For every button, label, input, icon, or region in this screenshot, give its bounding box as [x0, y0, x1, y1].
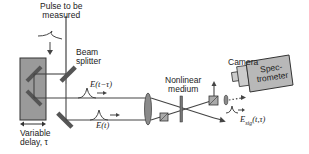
pulse-label-line2: measured	[40, 11, 83, 20]
camera-label: Camera	[228, 58, 258, 67]
nonlinear-medium-label: Nonlinear medium	[165, 76, 201, 94]
field-delayed-label: E(t−τ)	[90, 80, 112, 89]
beam-splitter-label: Beam splitter	[76, 48, 101, 66]
field-label: E(t)	[96, 121, 109, 130]
variable-delay-label-line2: delay, τ	[20, 138, 51, 147]
pulse-icon	[90, 110, 108, 120]
delay-arrow-left-head	[20, 122, 24, 127]
signal-pulse-icon	[226, 106, 238, 113]
variable-delay-label: Variable delay, τ	[20, 129, 51, 147]
signal-beam	[229, 98, 242, 100]
beam-splitter-label-line2: splitter	[76, 57, 101, 66]
input-arrow-head	[47, 50, 53, 55]
pulse-label: Pulse to be measured	[40, 2, 83, 20]
input-pulse-icon	[38, 31, 62, 39]
nonlinear-medium-label-line2: medium	[165, 85, 201, 94]
collection-lens	[224, 95, 228, 105]
delay-stage	[20, 58, 46, 120]
delayed-pulse-icon	[78, 88, 96, 98]
nonlinear-medium	[180, 96, 183, 122]
focusing-lens	[145, 93, 152, 125]
delay-arrow-right-head	[42, 122, 46, 127]
signal-field-label: Esig(t,τ)	[240, 115, 265, 128]
signal-field-args: (t,τ)	[252, 114, 265, 124]
